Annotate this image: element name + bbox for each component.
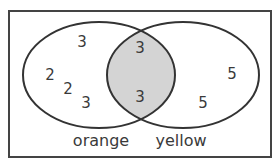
intersection-value: 3: [135, 39, 145, 57]
yellow-only-value: 5: [227, 65, 237, 83]
orange-set-label: orange: [73, 131, 129, 150]
orange-only-value: 2: [45, 66, 55, 84]
intersection-value: 3: [135, 88, 145, 106]
yellow-only-value: 5: [198, 94, 208, 112]
yellow-set-label: yellow: [155, 131, 206, 150]
orange-only-value: 3: [77, 33, 87, 51]
orange-only-value: 2: [63, 80, 73, 98]
orange-only-value: 3: [81, 94, 91, 112]
venn-diagram: 3 2 2 3 3 3 5 5 orange yellow: [0, 0, 276, 164]
